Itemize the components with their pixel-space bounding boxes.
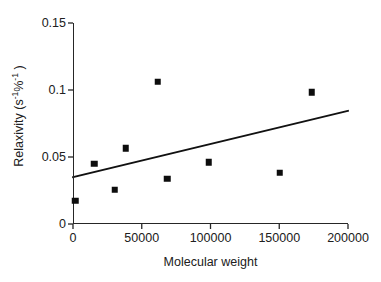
y-axis-title-mid: % <box>12 81 26 92</box>
x-axis-tick-label: 0 <box>70 231 77 245</box>
x-axis-title: Molecular weight <box>73 255 348 269</box>
x-axis-tick-label: 200000 <box>327 231 369 245</box>
plot-area <box>73 23 348 224</box>
y-axis-tick-label: 0.15 <box>0 16 66 30</box>
data-point <box>72 198 79 205</box>
data-point <box>91 161 98 168</box>
y-axis-title-base: Relaxivity (s <box>12 99 26 166</box>
y-axis-tick-label: 0 <box>0 217 66 231</box>
y-axis-title-exp2: -1 <box>10 73 20 81</box>
x-axis-tick-label: 100000 <box>190 231 232 245</box>
scatter-chart: 00.050.10.15 050000100000150000200000 Mo… <box>0 0 381 282</box>
data-point <box>123 145 130 152</box>
data-point <box>155 79 162 86</box>
data-point <box>164 176 171 183</box>
y-axis-title-exp1: -1 <box>10 92 20 100</box>
data-point <box>206 159 213 166</box>
data-point <box>309 89 316 96</box>
data-point <box>112 187 119 194</box>
y-axis-title: Relaxivity (s-1%-1 ) <box>10 36 26 196</box>
data-point <box>277 170 284 177</box>
x-axis-tick-label: 150000 <box>258 231 300 245</box>
x-axis-tick-label: 50000 <box>124 231 159 245</box>
y-axis-title-tail: ) <box>12 65 26 73</box>
